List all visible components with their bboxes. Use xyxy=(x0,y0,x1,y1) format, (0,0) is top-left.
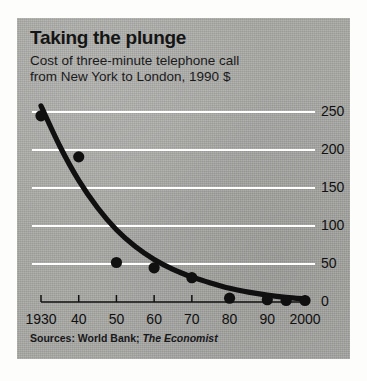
data-point xyxy=(281,295,292,306)
y-axis-tick-label: 100 xyxy=(321,217,344,233)
y-axis-tick-label: 200 xyxy=(321,141,344,157)
data-point xyxy=(186,272,197,283)
source-publication: The Economist xyxy=(142,332,217,344)
economist-chart-figure: Taking the plunge Cost of three-minute t… xyxy=(0,0,367,381)
source-prefix: Sources: World Bank; xyxy=(30,332,140,344)
plot-svg xyxy=(17,18,350,359)
gridlines-group xyxy=(32,112,315,264)
data-point xyxy=(262,294,273,305)
data-point xyxy=(224,293,235,304)
data-point xyxy=(111,257,122,268)
source-note: Sources: World Bank; The Economist xyxy=(30,332,218,344)
y-axis-tick-label: 0 xyxy=(321,293,329,309)
y-axis-tick-label: 250 xyxy=(321,103,344,119)
data-point xyxy=(149,262,160,273)
data-points-group xyxy=(35,110,310,306)
y-axis-tick-label: 150 xyxy=(321,179,344,195)
plot-area: 050100150200250 19304050607080902000 xyxy=(17,18,350,359)
x-axis-tick-label: 2000 xyxy=(283,311,327,327)
trend-curve xyxy=(41,106,305,299)
data-point xyxy=(35,110,46,121)
y-axis-tick-label: 50 xyxy=(321,255,337,271)
data-point xyxy=(299,295,310,306)
data-point xyxy=(73,151,84,162)
chart-panel: Taking the plunge Cost of three-minute t… xyxy=(17,18,350,359)
